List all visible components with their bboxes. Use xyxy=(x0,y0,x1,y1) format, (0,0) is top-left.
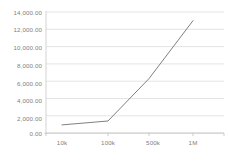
data-series-line xyxy=(62,21,193,125)
x-tick-label-100k: 100k xyxy=(101,139,115,147)
line-chart: 14,000.00 12,000.00 10,000.00 8,000.00 6… xyxy=(0,0,228,163)
x-axis-ticks xyxy=(46,133,224,136)
x-axis: 10k 100k 500k 1M xyxy=(46,139,224,153)
x-tick-label-10k: 10k xyxy=(57,139,67,147)
x-tick-label-1m: 1M xyxy=(189,139,198,147)
gridlines xyxy=(46,12,224,133)
x-tick-label-500k: 500k xyxy=(146,139,160,147)
